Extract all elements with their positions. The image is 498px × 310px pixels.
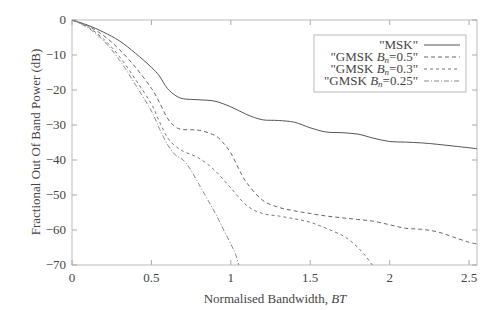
y-tick-label: −40 xyxy=(46,152,66,167)
y-tick-label: −10 xyxy=(46,47,66,62)
y-tick-label: 0 xyxy=(60,12,67,27)
x-tick-label: 1 xyxy=(228,270,235,285)
y-tick-label: −20 xyxy=(46,82,66,97)
legend: "MSK""GMSK Bn=0.5""GMSK Bn=0.3""GMSK Bn=… xyxy=(314,35,466,92)
y-tick-label: −70 xyxy=(46,257,66,272)
x-tick-label: 0 xyxy=(69,270,76,285)
x-tick-label: 0.5 xyxy=(143,270,159,285)
x-axis-title: Normalised Bandwidth, BT xyxy=(204,291,347,306)
series-line-3 xyxy=(72,20,239,265)
x-tick-label: 2.5 xyxy=(461,270,477,285)
x-tick-label: 2 xyxy=(386,270,393,285)
y-tick-label: −60 xyxy=(46,222,66,237)
y-axis-title: Fractional Out Of Band Power (dB) xyxy=(28,49,43,236)
y-tick-label: −50 xyxy=(46,187,66,202)
y-tick-label: −30 xyxy=(46,117,66,132)
legend-label: "GMSK Bn=0.25" xyxy=(324,73,418,89)
x-tick-label: 1.5 xyxy=(302,270,318,285)
line-chart: 00.511.522.5 0−10−20−30−40−50−60−70 Norm… xyxy=(0,0,498,310)
